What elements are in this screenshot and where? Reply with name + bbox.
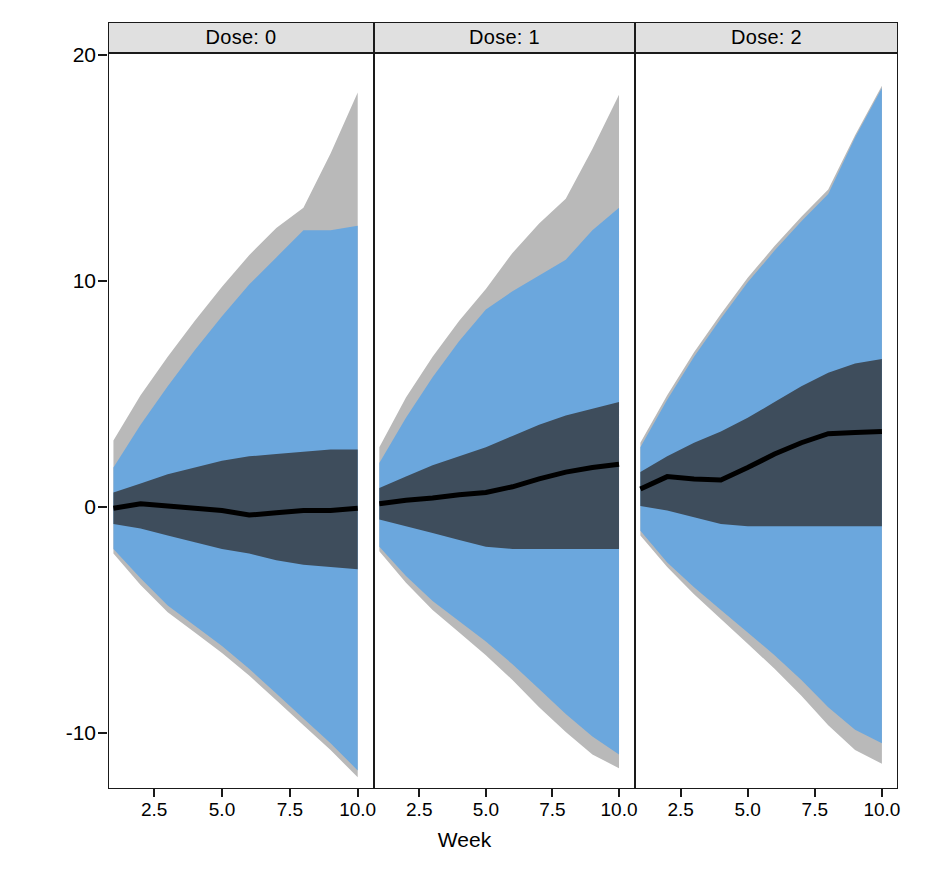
x-tick-label-p1-0: 2.5 bbox=[389, 800, 449, 819]
x-tick-mark-p1-0 bbox=[418, 789, 420, 797]
figure-root: Response 20 10 0 -10 Dose: 0 Dose: 1 Dos… bbox=[0, 0, 929, 894]
x-tick-mark-p2-2 bbox=[814, 789, 816, 797]
y-tick-label-20: 20 bbox=[44, 44, 96, 65]
x-tick-mark-p0-0 bbox=[153, 789, 155, 797]
x-tick-label-p0-0: 2.5 bbox=[124, 800, 184, 819]
y-tick-label-minus10: -10 bbox=[44, 722, 96, 743]
y-tick-mark-10 bbox=[98, 280, 107, 282]
x-tick-mark-p2-3 bbox=[881, 789, 883, 797]
x-tick-label-p0-3: 10.0 bbox=[328, 800, 388, 819]
strip-dose-1: Dose: 1 bbox=[374, 22, 635, 53]
band-plot-dose-2 bbox=[635, 54, 898, 788]
y-tick-mark-20 bbox=[98, 54, 107, 56]
x-tick-label-p2-1: 5.0 bbox=[718, 800, 778, 819]
x-tick-label-p2-0: 2.5 bbox=[651, 800, 711, 819]
x-tick-label-p1-1: 5.0 bbox=[456, 800, 516, 819]
x-tick-mark-p1-1 bbox=[485, 789, 487, 797]
x-tick-label-p0-2: 7.5 bbox=[260, 800, 320, 819]
x-tick-mark-p2-1 bbox=[747, 789, 749, 797]
x-tick-mark-p2-0 bbox=[680, 789, 682, 797]
x-tick-label-p1-3: 10.0 bbox=[589, 800, 649, 819]
x-tick-label-p1-2: 7.5 bbox=[522, 800, 582, 819]
x-axis-label: Week bbox=[0, 828, 929, 852]
panel-dose-2 bbox=[635, 54, 898, 788]
x-tick-label-p2-2: 7.5 bbox=[785, 800, 845, 819]
x-tick-label-p0-1: 5.0 bbox=[192, 800, 252, 819]
y-tick-mark-0 bbox=[98, 506, 107, 508]
strip-label-dose-0: Dose: 0 bbox=[205, 26, 276, 49]
x-tick-label-p2-3: 10.0 bbox=[852, 800, 912, 819]
band-plot-dose-1 bbox=[374, 54, 635, 788]
band-plot-dose-0 bbox=[108, 54, 374, 788]
y-tick-label-0: 0 bbox=[44, 496, 96, 517]
panel-dose-0 bbox=[108, 54, 374, 788]
x-tick-mark-p0-3 bbox=[357, 789, 359, 797]
y-tick-label-10: 10 bbox=[44, 270, 96, 291]
y-tick-mark-minus10 bbox=[98, 732, 107, 734]
strip-label-dose-1: Dose: 1 bbox=[469, 26, 540, 49]
x-tick-mark-p1-2 bbox=[551, 789, 553, 797]
x-tick-mark-p0-1 bbox=[221, 789, 223, 797]
panel-dose-1 bbox=[374, 54, 635, 788]
x-tick-mark-p0-2 bbox=[289, 789, 291, 797]
strip-dose-2: Dose: 2 bbox=[635, 22, 898, 53]
strip-dose-0: Dose: 0 bbox=[108, 22, 374, 53]
strip-label-dose-2: Dose: 2 bbox=[731, 26, 802, 49]
x-tick-mark-p1-3 bbox=[618, 789, 620, 797]
